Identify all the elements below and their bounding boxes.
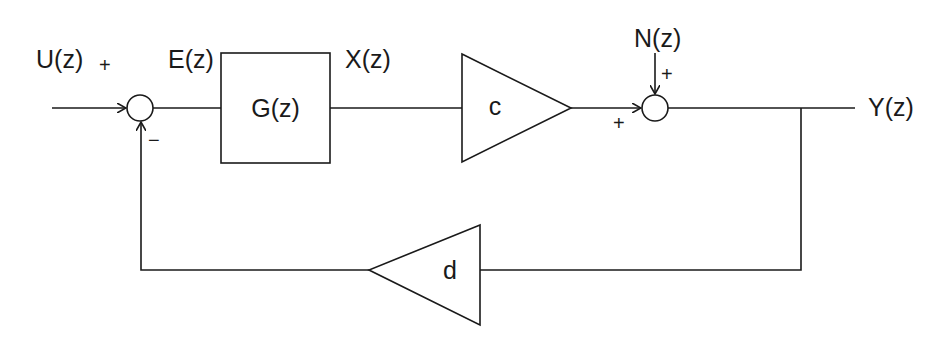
summer1-plus-sign: + [99, 55, 111, 75]
block-diagram-canvas [0, 0, 951, 342]
summer2-noise-plus-sign: + [661, 64, 673, 84]
summing-junction-1 [127, 95, 153, 121]
feedback-right-line [480, 108, 801, 270]
plant-label: G(z) [221, 96, 330, 121]
feedback-left-line [141, 122, 369, 270]
gain-c-label: c [470, 94, 520, 119]
summer1-minus-sign: − [148, 130, 160, 150]
output-label: Y(z) [868, 95, 914, 120]
error-label: E(z) [168, 47, 214, 72]
summer2-forward-plus-sign: + [613, 113, 625, 133]
input-label: U(z) [36, 47, 83, 72]
x-label: X(z) [345, 47, 391, 72]
summing-junction-2 [642, 95, 668, 121]
gain-d-label: d [430, 258, 470, 283]
noise-label: N(z) [634, 26, 681, 51]
